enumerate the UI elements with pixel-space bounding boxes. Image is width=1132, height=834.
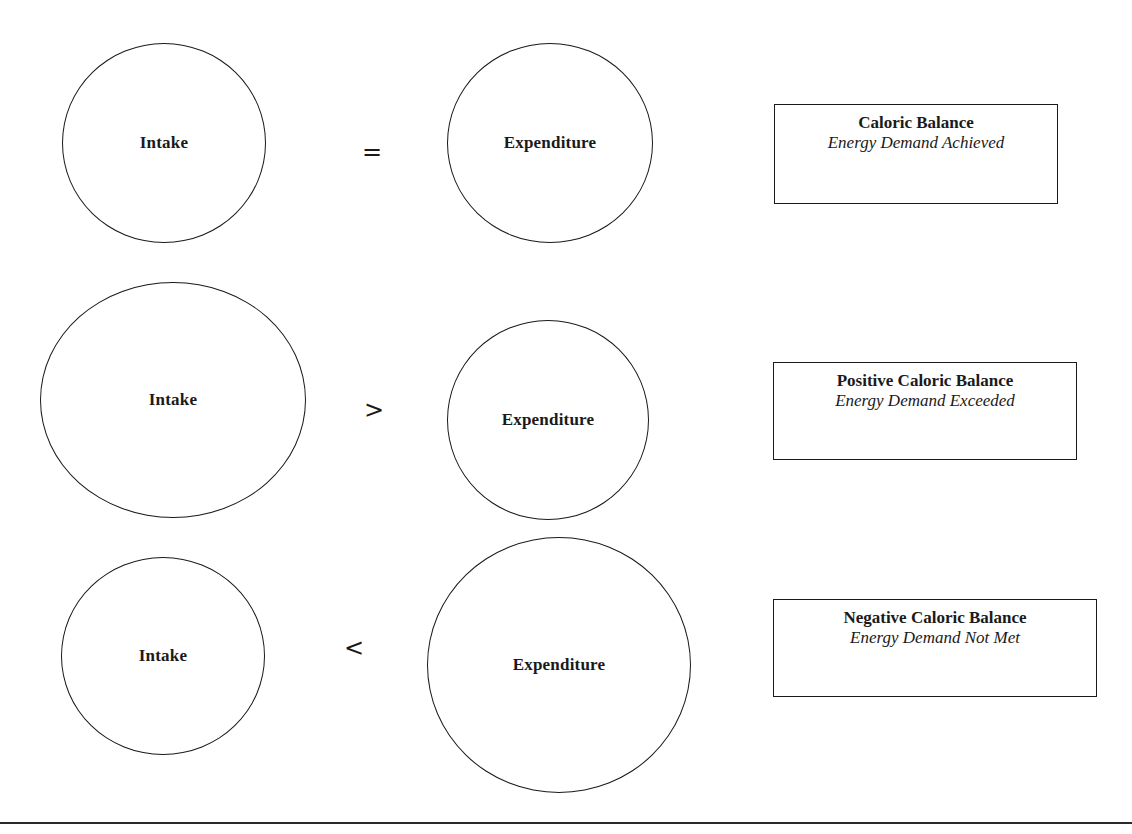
result-title: Positive Caloric Balance: [774, 371, 1076, 391]
caption-fragment: [548, 830, 638, 834]
expenditure-circle: Expenditure: [447, 320, 649, 520]
result-subtitle: Energy Demand Achieved: [775, 133, 1057, 153]
expenditure-label: Expenditure: [513, 655, 606, 675]
expenditure-label: Expenditure: [502, 410, 595, 430]
negative-caloric-balance-box: Negative Caloric Balance Energy Demand N…: [773, 599, 1097, 697]
caloric-balance-box: Caloric Balance Energy Demand Achieved: [774, 104, 1058, 204]
result-subtitle: Energy Demand Not Met: [774, 628, 1096, 648]
equals-operator: =: [362, 140, 382, 164]
intake-circle: Intake: [61, 557, 265, 755]
intake-label: Intake: [149, 390, 197, 410]
divider-rule: [0, 822, 1132, 824]
greater-than-operator: >: [364, 398, 384, 422]
result-subtitle: Energy Demand Exceeded: [774, 391, 1076, 411]
intake-circle: Intake: [62, 43, 266, 243]
intake-label: Intake: [140, 133, 188, 153]
result-title: Caloric Balance: [775, 113, 1057, 133]
less-than-operator: <: [344, 636, 364, 660]
expenditure-circle: Expenditure: [447, 43, 653, 243]
intake-ellipse: Intake: [40, 282, 306, 518]
intake-label: Intake: [139, 646, 187, 666]
result-title: Negative Caloric Balance: [774, 608, 1096, 628]
positive-caloric-balance-box: Positive Caloric Balance Energy Demand E…: [773, 362, 1077, 460]
expenditure-ellipse: Expenditure: [427, 537, 691, 793]
expenditure-label: Expenditure: [504, 133, 597, 153]
